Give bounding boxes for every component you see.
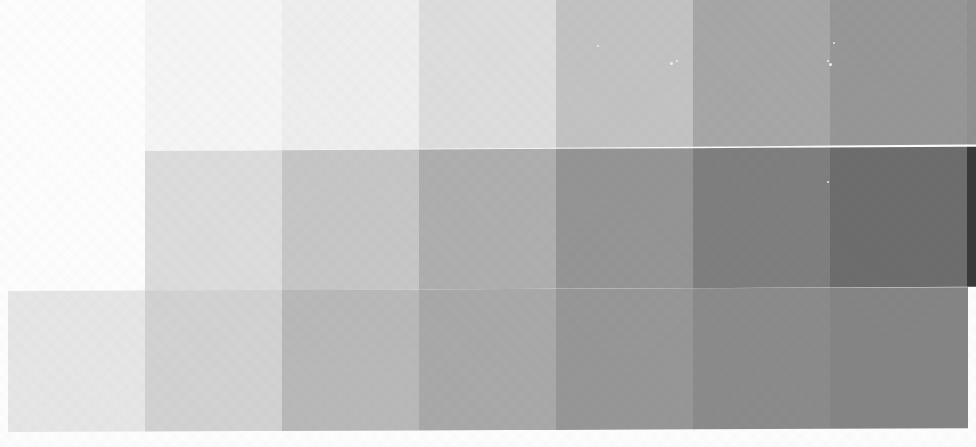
gray-patch-r3-c4 [419, 289, 556, 431]
middle-band [145, 147, 976, 291]
gray-patch-r1-c6 [830, 0, 967, 146]
gray-patch-r2-c5 [693, 147, 830, 288]
gray-patch-r3-c2 [145, 290, 282, 432]
gray-patch-r1-c2 [282, 0, 419, 150]
gray-patch-r2-c6 [830, 147, 967, 288]
gray-patch-r3-c6 [693, 288, 830, 430]
gray-patch-r2-c1 [145, 150, 282, 291]
gray-patch-r3-c3 [282, 289, 419, 431]
gray-patch-r1-c3 [419, 0, 556, 149]
top-band [145, 0, 976, 151]
gray-patch-r1-c4 [556, 0, 693, 148]
bottom-band [8, 287, 968, 432]
gray-patch-r1-c5 [693, 0, 830, 147]
gray-patch-r2-c2 [282, 150, 419, 291]
gray-patch-r3-c7 [830, 287, 968, 429]
gray-patch-r2-c7 [967, 147, 976, 287]
gray-patch-r2-c4 [556, 148, 693, 289]
gray-patch-r3-c5 [556, 288, 693, 430]
chart-canvas [0, 0, 976, 447]
gray-patch-r3-c1 [8, 290, 145, 432]
gray-patch-r1-c7 [967, 0, 976, 145]
gray-patch-r2-c3 [419, 149, 556, 290]
gray-patch-r1-c1 [145, 0, 282, 151]
